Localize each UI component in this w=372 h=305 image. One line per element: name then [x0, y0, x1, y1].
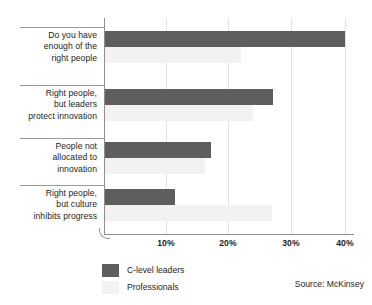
category-label-line: Right people, [0, 188, 97, 199]
x-tick-label-10: 10% [146, 238, 186, 248]
group-separator [20, 85, 104, 86]
category-label-line: right people [0, 53, 97, 64]
legend-swatch-icon [102, 281, 119, 294]
group-separator [20, 185, 104, 186]
bar-c-level-leaders [105, 89, 273, 105]
category-label-line: allocated to [0, 152, 97, 163]
category-label-line: People not [0, 141, 97, 152]
category-label-line: Do you have [0, 30, 97, 41]
bar-c-level-leaders [105, 189, 175, 205]
x-tick-label-40: 40% [325, 238, 365, 248]
legend-label: C-level leaders [127, 265, 184, 275]
category-label: People not allocated to innovation [0, 141, 97, 175]
legend-swatch-icon [102, 264, 119, 277]
category-label-line: but culture [0, 199, 97, 210]
category-label-line: Right people, [0, 88, 97, 99]
category-label: Do you have enough of the right people [0, 30, 97, 64]
legend-label: Professionals [127, 282, 179, 292]
bar-chart: Do you have enough of the right people R… [0, 0, 372, 305]
bar-professionals [105, 47, 241, 63]
category-label-line: inhibits progress [0, 211, 97, 222]
x-axis-line [104, 234, 354, 235]
bar-professionals [105, 105, 253, 121]
x-tick-label-20: 20% [208, 238, 248, 248]
category-label: Right people, but culture inhibits progr… [0, 188, 97, 222]
bar-c-level-leaders [105, 142, 211, 158]
bar-professionals [105, 158, 205, 174]
bar-professionals [105, 205, 272, 221]
source-credit: Source: McKinsey [295, 279, 364, 289]
category-label-line: enough of the [0, 41, 97, 52]
category-label-line: protect innovation [0, 111, 97, 122]
group-separator [20, 138, 104, 139]
x-tick-label-30: 30% [271, 238, 311, 248]
group-separator [20, 27, 104, 28]
category-label-line: innovation [0, 164, 97, 175]
bar-c-level-leaders [105, 31, 345, 47]
gridline-40 [345, 18, 346, 234]
category-label: Right people, but leaders protect innova… [0, 88, 97, 122]
category-label-line: but leaders [0, 99, 97, 110]
gridline-30 [291, 18, 292, 234]
